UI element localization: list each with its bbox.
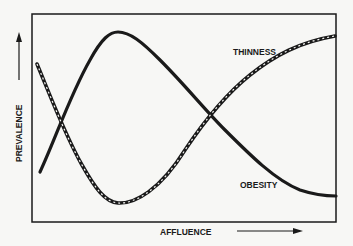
thinness-curve-hatch <box>37 36 335 203</box>
obesity-label: OBESITY <box>240 180 278 190</box>
right-arrow-icon <box>293 228 303 234</box>
up-arrow-icon <box>16 32 22 42</box>
x-axis-label: AFFLUENCE <box>160 227 212 237</box>
prevalence-vs-affluence-chart: THINNESS OBESITY PREVALENCE AFFLUENCE <box>0 0 353 246</box>
y-axis-label: PREVALENCE <box>14 104 24 162</box>
thinness-label: THINNESS <box>233 47 276 57</box>
thinness-curve <box>37 36 335 203</box>
plot-frame <box>32 14 336 222</box>
